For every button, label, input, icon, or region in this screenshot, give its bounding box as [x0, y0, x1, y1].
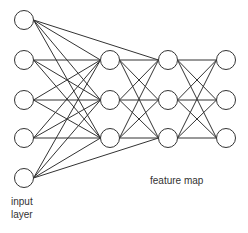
connection-edge	[34, 20, 101, 60]
input-layer-label: input layer	[11, 195, 33, 221]
connections	[34, 20, 217, 178]
hidden2-neuron	[159, 91, 178, 110]
input-label-line1: input	[11, 195, 33, 208]
hidden2-neuron	[159, 129, 178, 148]
input-neuron	[15, 11, 34, 30]
connection-edge	[34, 100, 101, 178]
hidden1-neuron	[101, 51, 120, 70]
hidden1-neuron	[101, 129, 120, 148]
feature-map-label: feature map	[150, 174, 203, 187]
input-label-line2: layer	[11, 208, 33, 221]
neural-network-diagram	[0, 0, 248, 233]
output-neuron	[217, 129, 236, 148]
output-neuron	[217, 91, 236, 110]
hidden2-neuron	[159, 51, 178, 70]
input-neuron	[15, 169, 34, 188]
output-neuron	[217, 51, 236, 70]
connection-edge	[34, 138, 101, 178]
input-neuron	[15, 51, 34, 70]
hidden1-neuron	[101, 91, 120, 110]
input-neuron	[15, 129, 34, 148]
input-neuron	[15, 91, 34, 110]
